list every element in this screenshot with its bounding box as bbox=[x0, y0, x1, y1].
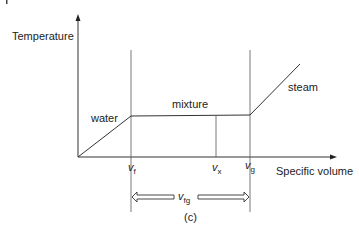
y-axis bbox=[76, 14, 81, 157]
vg-label: vg bbox=[245, 159, 255, 174]
x-axis bbox=[78, 155, 337, 160]
x-axis-arrow-icon bbox=[330, 155, 337, 160]
right-hollow-arrow-icon bbox=[198, 192, 249, 202]
vf-label: vf bbox=[128, 161, 137, 176]
water-label: water bbox=[90, 112, 118, 124]
vfg-range-arrow: vfg bbox=[132, 190, 249, 205]
y-axis-label: Temperature bbox=[12, 30, 74, 42]
figure-caption: (c) bbox=[184, 211, 197, 223]
x-axis-label: Specific volume bbox=[276, 165, 353, 177]
steam-label: steam bbox=[288, 81, 318, 93]
left-hollow-arrow-icon bbox=[132, 192, 174, 202]
vx-label: vx bbox=[212, 161, 222, 176]
corner-mark bbox=[6, 0, 8, 4]
process-curve bbox=[78, 64, 300, 157]
y-axis-arrow-icon bbox=[76, 14, 81, 21]
vfg-label: vfg bbox=[178, 190, 190, 205]
mixture-label: mixture bbox=[172, 98, 208, 110]
temperature-specific-volume-diagram: Temperature Specific volume water mixtur… bbox=[0, 0, 359, 235]
